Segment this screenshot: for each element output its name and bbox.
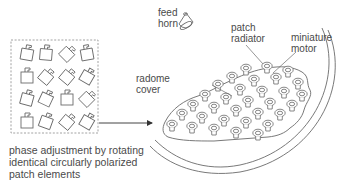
rotated-patch-element	[79, 66, 97, 85]
patch-radiator-element	[271, 73, 281, 84]
patch-radiator-element	[231, 127, 241, 138]
rotated-patch-element	[59, 66, 78, 85]
rotated-patch-element	[21, 68, 33, 83]
caption-line-1: phase adjustment by rotating	[9, 144, 144, 156]
patch-radiator-element	[293, 78, 303, 89]
patch-radiator-element	[283, 66, 293, 77]
patch-radiator-element	[197, 112, 207, 123]
rotated-patch-element	[79, 111, 97, 130]
patch-radiator-element	[275, 109, 285, 120]
rotated-patch-element	[20, 89, 35, 107]
inset-dashed-box	[11, 40, 98, 133]
rotated-patch-element	[20, 44, 34, 61]
rotated-patch-element	[38, 88, 55, 107]
patch-radiator-element	[279, 87, 289, 98]
rotated-patch-element	[21, 113, 33, 128]
patch-radiator-element	[167, 120, 177, 131]
patch-radiator-element	[241, 64, 251, 75]
patch-radiator-element	[287, 100, 297, 111]
patch-radiator-element	[249, 75, 259, 86]
patch-radiator-element	[213, 80, 223, 91]
patch-radiator-element	[188, 100, 198, 111]
feed-horn-label: feed horn	[158, 7, 178, 29]
patch-radiator-element	[219, 115, 229, 126]
rotated-patch-element	[59, 43, 78, 62]
patch-radiator-element	[231, 105, 241, 116]
patch-radiator-label: patch radiator	[231, 22, 265, 44]
caption-line-2: identical circularly polarized	[9, 156, 137, 168]
miniature-motor-label: miniature motor	[291, 32, 332, 54]
patch-array-inset	[11, 40, 98, 133]
rotated-patch-element	[39, 45, 52, 61]
rotated-patch-element	[79, 88, 98, 107]
patch-radiator-element	[243, 96, 253, 107]
patch-radiator-element	[235, 84, 245, 95]
patch-radiator-element	[200, 90, 210, 101]
patch-radiator-element	[263, 120, 273, 131]
radome-cover-label: radome cover	[136, 73, 170, 95]
patch-radiator-element	[265, 98, 275, 109]
caption-line-3: patch elements	[9, 168, 80, 180]
patch-radiator-element	[262, 62, 272, 73]
patch-radiator-array	[167, 62, 307, 140]
rotated-patch-element	[59, 111, 78, 130]
patch-radiator-element	[187, 122, 197, 133]
patch-radiator-element	[209, 102, 219, 113]
patch-radiator-element	[177, 109, 187, 120]
rotated-patch-element	[61, 90, 73, 105]
patch-radiator-element	[209, 124, 219, 135]
rotated-patch-element	[80, 44, 94, 61]
patch-radiator-element	[241, 117, 251, 128]
rotated-patch-element	[38, 111, 54, 129]
patch-radiator-element	[253, 108, 263, 119]
patch-radiator-element	[297, 90, 307, 101]
rotated-patch-element	[38, 66, 57, 85]
patch-radiator-element	[257, 86, 267, 97]
feed-horn-icon	[179, 13, 193, 31]
